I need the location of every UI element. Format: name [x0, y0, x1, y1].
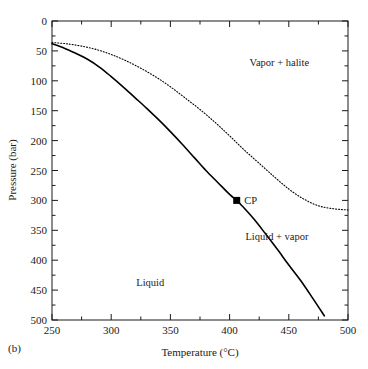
y-tick-label: 50 — [36, 45, 48, 57]
phase-diagram-figure: 250300350400450500 050100150200250300350… — [0, 0, 368, 369]
y-tick-label: 300 — [31, 194, 48, 206]
y-axis-minor-ticks — [52, 36, 348, 305]
x-tick-label: 350 — [162, 324, 179, 336]
y-axis-tick-labels: 050100150200250300350400450500 — [31, 15, 48, 326]
panel-label: (b) — [8, 342, 21, 355]
liquid-region: Liquid — [136, 277, 165, 288]
y-tick-label: 0 — [42, 15, 48, 27]
y-tick-label: 250 — [31, 165, 48, 177]
vapor-halite-region: Vapor + halite — [250, 57, 310, 68]
x-axis-title: Temperature (°C) — [161, 346, 239, 359]
series-line — [52, 44, 324, 316]
x-tick-label: 450 — [281, 324, 298, 336]
y-tick-label: 350 — [31, 224, 48, 236]
y-tick-label: 150 — [31, 105, 48, 117]
x-tick-label: 300 — [103, 324, 120, 336]
y-tick-label: 450 — [31, 284, 48, 296]
x-axis-tick-labels: 250300350400450500 — [44, 324, 357, 336]
data-series-group — [52, 43, 348, 316]
liquid-vapor-region: Liquid + vapor — [245, 231, 309, 242]
phase-diagram-chart: 250300350400450500 050100150200250300350… — [0, 0, 368, 369]
region-annotations: Vapor + haliteLiquid + vaporLiquid — [136, 57, 309, 287]
y-tick-label: 400 — [31, 254, 48, 266]
critical-point-marker — [233, 197, 240, 204]
y-tick-label: 200 — [31, 135, 48, 147]
x-tick-label: 400 — [221, 324, 238, 336]
y-tick-label: 100 — [31, 75, 48, 87]
y-axis-title: Pressure (bar) — [6, 139, 19, 201]
y-tick-label: 500 — [31, 314, 48, 326]
critical-point-label: CP — [244, 195, 257, 206]
marker-group: CP — [233, 195, 257, 206]
x-tick-label: 500 — [340, 324, 357, 336]
